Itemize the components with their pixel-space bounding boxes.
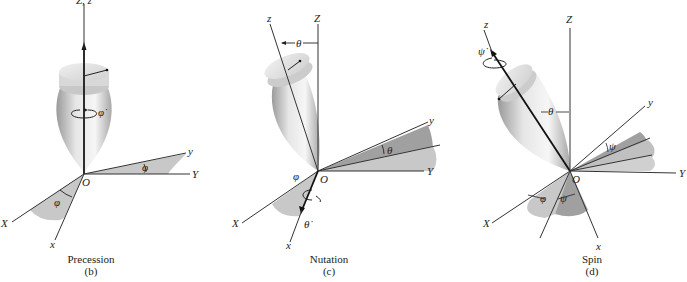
phi-angle-label-x: φ [54,196,60,208]
axis-label-x: x [285,239,291,251]
spin-rate-label: ψ̇ [478,45,489,57]
panel-precession: Z, z y Y X x O φ̇ φ φ Precession (b) [0,0,200,278]
phi-angle-label: φ [293,170,299,182]
psi-angle-label-x: ψ [560,192,567,204]
caption-precession: Precession [67,253,115,265]
origin-label: O [320,173,328,185]
origin-label: O [82,176,90,188]
origin-label: O [572,173,580,185]
phi-angle-label: φ [540,192,546,204]
axis-label-x: x [595,240,601,252]
axis-label-y: y [187,145,193,157]
axis-label-Y: Y [192,168,200,180]
axis-label-Z: Z [314,12,321,24]
axis-label-X: X [231,217,240,229]
axis-label-X: X [482,217,491,229]
panel-spin: z Z ψ̇ θ y Y X x O ψ φ ψ Spin (d) [478,13,687,278]
psi-angle-label-y: ψ [609,140,616,152]
theta-angle-label: θ [296,37,302,49]
caption-sublabel-c: (c) [323,265,336,278]
axis-label-z: z [266,12,272,24]
axis-label-X: X [0,217,9,229]
axis-label-Y: Y [679,167,687,179]
phi-angle-label-y: φ [142,161,148,173]
caption-sublabel-d: (d) [586,265,599,278]
caption-sublabel-b: (b) [85,265,98,278]
caption-spin: Spin [582,253,603,265]
theta-angle-label-y: θ [387,144,393,156]
spinning-top [261,48,319,171]
caption-nutation: Nutation [310,253,349,265]
axis-label-z: z [483,18,489,30]
axis-label-y: y [428,114,434,126]
axis-label-y: y [647,96,653,108]
axis-label-x: x [49,238,55,250]
euler-angles-diagram: Z, z y Y X x O φ̇ φ φ Precession (b) [0,0,687,282]
theta-angle-label: θ [548,105,554,117]
axis-label-Zz: Z, z [76,0,93,6]
panel-nutation: z Z θ y Y X x O θ φ θ̇ Nutation (c) [231,12,440,278]
axis-label-Z: Z [566,13,573,25]
nutation-rate-label: θ̇ [304,218,313,230]
